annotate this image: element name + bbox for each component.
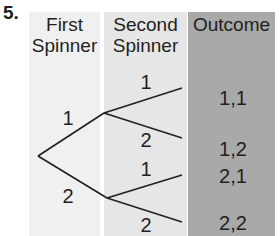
first-spinner-1: 1 — [58, 108, 78, 128]
first-spinner-2: 2 — [58, 186, 78, 206]
second-spinner-1b: 1 — [136, 159, 156, 179]
outcome-1-1: 1,1 — [208, 88, 258, 108]
tree-diagram-lines — [0, 0, 280, 236]
second-spinner-2a: 2 — [136, 130, 156, 150]
second-spinner-2b: 2 — [136, 215, 156, 235]
outcome-2-2: 2,2 — [208, 213, 258, 233]
outcome-2-1: 2,1 — [208, 166, 258, 186]
second-spinner-1a: 1 — [136, 72, 156, 92]
outcome-1-2: 1,2 — [208, 139, 258, 159]
